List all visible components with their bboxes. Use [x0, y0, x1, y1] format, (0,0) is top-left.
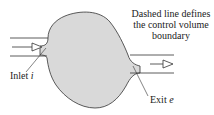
caption-line-2: the control volume — [128, 19, 214, 30]
exit-label-text: Exit — [150, 94, 167, 105]
exit-leader — [133, 66, 148, 96]
inlet-symbol: i — [31, 70, 34, 81]
exit-symbol: e — [169, 94, 173, 105]
exit-arrow-head — [163, 60, 173, 68]
exit-label: Exit e — [150, 94, 174, 105]
caption-line-1: Dashed line defines — [128, 8, 214, 19]
inlet-leader — [26, 48, 46, 72]
caption-line-3: boundary — [128, 30, 214, 41]
caption: Dashed line defines the control volume b… — [128, 8, 214, 41]
inlet-label-text: Inlet — [10, 70, 28, 81]
control-volume-region — [40, 12, 140, 108]
inlet-label: Inlet i — [10, 70, 34, 81]
